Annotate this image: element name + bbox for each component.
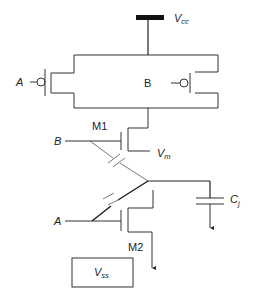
pmos-left	[30, 55, 74, 108]
coupling-capacitor-a	[92, 181, 148, 221]
m1-label: M1	[92, 120, 107, 132]
m2-transistor	[65, 190, 153, 268]
vcc-supply-bar	[136, 15, 164, 20]
m2-label: M2	[128, 241, 143, 253]
pmos-left-gate-label: A	[15, 76, 23, 88]
load-capacitor	[196, 198, 224, 228]
vss-label: Vss	[94, 266, 109, 280]
m1-gate-label: B	[54, 135, 61, 147]
load-capacitor-label: Cj	[230, 193, 240, 208]
output-label: Vm	[157, 147, 171, 161]
coupling-capacitor-b	[90, 141, 148, 181]
coupling-capacitor-a-plates	[103, 193, 120, 205]
m2-gate-label: A	[53, 215, 61, 227]
pmos-right-gate-label: B	[144, 77, 151, 89]
pmos-right	[171, 55, 218, 108]
m1-transistor	[65, 108, 150, 151]
internal-node-wire	[148, 181, 210, 198]
vcc-label: Vcc	[174, 12, 189, 26]
circuit-diagram: Vcc A B M1 B Vm	[0, 0, 253, 302]
